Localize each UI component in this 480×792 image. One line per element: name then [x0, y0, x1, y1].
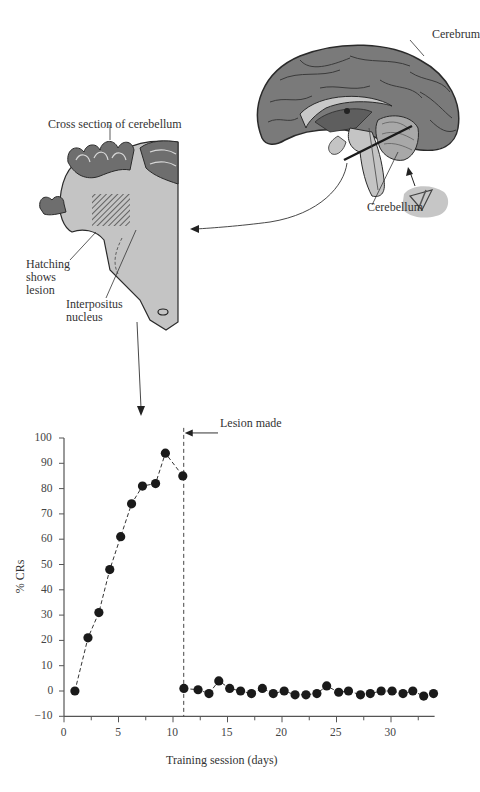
data-point [419, 691, 428, 700]
data-point [301, 690, 310, 699]
data-point [179, 684, 188, 693]
data-point [94, 608, 103, 617]
x-tick-label: 0 [61, 726, 67, 738]
data-point [247, 689, 256, 698]
data-point [70, 686, 79, 695]
data-point [161, 449, 170, 458]
data-point [138, 481, 147, 490]
label-cerebrum: Cerebrum [432, 28, 480, 41]
data-point [366, 689, 375, 698]
y-tick-label: 50 [41, 558, 53, 570]
data-point [334, 688, 343, 697]
data-point [214, 676, 223, 685]
data-point [429, 689, 438, 698]
x-tick-label: 20 [276, 726, 288, 738]
y-tick-label: 30 [41, 608, 53, 620]
y-tick-label: 20 [41, 633, 53, 645]
x-tick-label: 5 [115, 726, 121, 738]
y-tick-label: 100 [35, 431, 52, 443]
data-point [312, 689, 321, 698]
data-point [178, 471, 187, 480]
data-point [116, 532, 125, 541]
y-tick-label: −10 [35, 709, 53, 721]
y-tick-label: 90 [41, 456, 53, 468]
chart [59, 428, 438, 722]
data-point [83, 633, 92, 642]
data-point [236, 686, 245, 695]
data-point [356, 690, 365, 699]
y-tick-label: 60 [41, 532, 53, 544]
data-point [127, 499, 136, 508]
data-point [204, 689, 213, 698]
label-interpositus: Interpositus nucleus [66, 298, 123, 324]
data-point [151, 479, 160, 488]
data-point [387, 686, 396, 695]
y-tick-label: 10 [41, 659, 53, 671]
data-point [290, 690, 299, 699]
x-tick-label: 30 [385, 726, 397, 738]
y-tick-label: 40 [41, 583, 53, 595]
label-hatching: Hatching shows lesion [26, 258, 70, 297]
data-point [377, 686, 386, 695]
x-tick-label: 15 [221, 726, 233, 738]
x-tick-label: 25 [330, 726, 342, 738]
y-tick-label: 0 [48, 684, 54, 696]
y-axis-label: % CRs [14, 560, 27, 594]
data-point [280, 686, 289, 695]
x-axis-label: Training session (days) [166, 754, 278, 767]
x-tick-label: 10 [167, 726, 179, 738]
data-point [322, 681, 331, 690]
series-line [75, 453, 183, 691]
data-point [398, 689, 407, 698]
data-point [225, 684, 234, 693]
label-lesion-made: Lesion made [220, 417, 282, 430]
data-point [344, 686, 353, 695]
data-point [258, 684, 267, 693]
data-point [193, 685, 202, 694]
label-cross-section: Cross section of cerebellum [48, 118, 182, 131]
data-point [408, 686, 417, 695]
data-point [269, 689, 278, 698]
y-tick-label: 80 [41, 482, 53, 494]
y-tick-label: 70 [41, 507, 53, 519]
data-point [105, 565, 114, 574]
label-cerebellum: Cerebellum [367, 201, 423, 214]
